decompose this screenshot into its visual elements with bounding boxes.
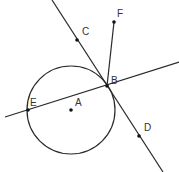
geometry-diagram: ABCDEF — [0, 0, 179, 172]
point-e — [26, 108, 30, 112]
point-b — [105, 84, 109, 88]
point-c — [75, 38, 79, 42]
diagram-svg: ABCDEF — [0, 0, 179, 172]
point-f — [112, 20, 116, 24]
point-d — [137, 134, 141, 138]
point-label-e: E — [30, 97, 37, 108]
point-a — [69, 108, 73, 112]
point-label-a: A — [75, 97, 82, 108]
secant-line — [5, 62, 179, 117]
point-label-f: F — [117, 8, 123, 19]
point-label-c: C — [82, 26, 89, 37]
point-label-d: D — [144, 122, 151, 133]
point-label-b: B — [111, 75, 118, 86]
